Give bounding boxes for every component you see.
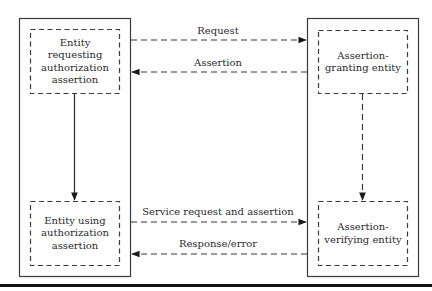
assertion-label: Assertion [168, 57, 268, 69]
requester-text: Entity requesting authorization assertio… [31, 30, 119, 93]
granter-line-1: Assertion- [325, 50, 401, 63]
service-request-label: Service request and assertion [138, 206, 298, 218]
user-line-3: assertion [41, 240, 109, 253]
verifier-text: Assertion- verifying entity [319, 202, 407, 265]
response-label: Response/error [148, 238, 288, 250]
requester-line-4: assertion [41, 74, 109, 87]
bottom-rule [0, 284, 432, 287]
requester-line-1: Entity [41, 37, 109, 50]
requester-line-3: authorization [41, 62, 109, 75]
user-line-2: authorization [41, 227, 109, 240]
requester-line-2: requesting [41, 49, 109, 62]
request-label: Request [168, 25, 268, 37]
user-line-1: Entity using [41, 215, 109, 228]
granter-line-2: granting entity [325, 62, 401, 75]
granter-text: Assertion- granting entity [319, 31, 407, 93]
verifier-line-1: Assertion- [324, 221, 401, 234]
verifier-line-2: verifying entity [324, 234, 401, 247]
user-text: Entity using authorization assertion [31, 202, 119, 265]
